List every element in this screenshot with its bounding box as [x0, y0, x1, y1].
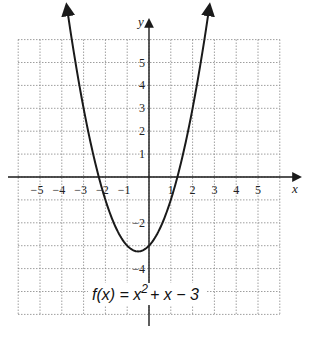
x-axis-label: x: [291, 181, 298, 196]
x-tick-label: 4: [233, 183, 239, 197]
y-tick-label: 5: [139, 56, 145, 70]
x-tick-label: −3: [74, 183, 87, 197]
x-tick-label: 3: [211, 183, 217, 197]
y-tick-label: 2: [139, 124, 145, 138]
function-graph: x y −5−4−3−2−11234554321−2−4 f(x) = x2+ …: [0, 0, 310, 338]
y-tick-label: 1: [139, 147, 145, 161]
y-tick-label: 4: [139, 78, 145, 92]
y-tick-label: −4: [132, 262, 145, 276]
y-tick-label: −2: [132, 216, 145, 230]
axes: x y: [8, 14, 300, 326]
y-axis-label: y: [136, 14, 144, 29]
x-tick-label: 5: [255, 183, 261, 197]
x-tick-label: −4: [52, 183, 65, 197]
y-tick-label: 3: [139, 101, 145, 115]
x-tick-label: −5: [31, 183, 44, 197]
tick-labels: −5−4−3−2−11234554321−2−4: [31, 56, 261, 276]
x-tick-label: 2: [190, 183, 196, 197]
x-tick-label: −1: [118, 183, 131, 197]
